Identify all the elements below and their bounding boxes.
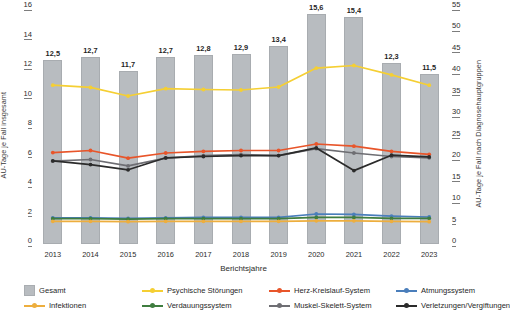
right-tick-30: 30 xyxy=(452,107,476,118)
series-point[interactable] xyxy=(390,153,394,157)
tick-label: 6 xyxy=(28,149,32,159)
x-label-2022: 2022 xyxy=(372,250,412,259)
series-point[interactable] xyxy=(314,142,318,146)
series-point[interactable] xyxy=(164,156,168,160)
series-point[interactable] xyxy=(427,220,431,224)
series-point[interactable] xyxy=(277,149,281,153)
series-point[interactable] xyxy=(89,219,93,223)
legend-item-gesamt[interactable]: Gesamt xyxy=(24,285,142,296)
series-point[interactable] xyxy=(277,219,281,223)
legend-item-infektionen[interactable]: Infektionen xyxy=(24,301,142,310)
left-tick-12: 12 xyxy=(8,59,32,70)
legend-label: Verdauungssystem xyxy=(167,301,232,310)
series-point[interactable] xyxy=(352,169,356,173)
series-point[interactable] xyxy=(427,155,431,159)
left-tick-6: 6 xyxy=(8,148,32,159)
series-point[interactable] xyxy=(239,149,243,153)
right-tick-40: 40 xyxy=(452,64,476,75)
series-point[interactable] xyxy=(239,219,243,223)
tick-label: 12 xyxy=(24,60,32,70)
series-point[interactable] xyxy=(314,146,318,150)
series-point[interactable] xyxy=(202,149,206,153)
legend-item-muskel-skelett-system[interactable]: Muskel-Skelett-System xyxy=(269,301,396,310)
legend-item-verdauungssystem[interactable]: Verdauungssystem xyxy=(142,301,269,310)
tick-label: 40 xyxy=(452,65,460,75)
right-tick-20: 20 xyxy=(452,150,476,161)
series-point[interactable] xyxy=(51,159,55,163)
series-point[interactable] xyxy=(314,216,318,220)
series-point[interactable] xyxy=(314,212,318,216)
tick-label: 10 xyxy=(24,90,32,100)
series-point[interactable] xyxy=(164,151,168,155)
line-series-layer xyxy=(34,8,448,244)
right-tick-50: 50 xyxy=(452,21,476,32)
chart-legend: GesamtPsychische StörungenHerz-Kreislauf… xyxy=(24,283,470,313)
series-point[interactable] xyxy=(51,83,55,87)
series-point[interactable] xyxy=(126,94,130,98)
legend-item-herz-kreislauf-system[interactable]: Herz-Kreislauf-System xyxy=(269,286,396,295)
series-point[interactable] xyxy=(390,73,394,77)
series-point[interactable] xyxy=(89,86,93,90)
legend-label: Gesamt xyxy=(39,286,66,295)
series-point[interactable] xyxy=(277,85,281,89)
series-point[interactable] xyxy=(314,66,318,70)
x-axis-title: Berichtsjahre xyxy=(0,264,487,273)
legend-label: Herz-Kreislauf-System xyxy=(294,286,370,295)
series-point[interactable] xyxy=(164,219,168,223)
legend-label: Verletzungen/Vergiftungen xyxy=(421,301,510,310)
right-tick-45: 45 xyxy=(452,43,476,54)
x-label-2020: 2020 xyxy=(296,250,336,259)
series-point[interactable] xyxy=(277,154,281,158)
legend-swatch-line-icon xyxy=(24,301,45,310)
tick-label: 55 xyxy=(452,1,460,11)
series-point[interactable] xyxy=(427,216,431,220)
series-point[interactable] xyxy=(352,144,356,148)
series-point[interactable] xyxy=(239,154,243,158)
series-point[interactable] xyxy=(202,88,206,92)
legend-swatch-line-icon xyxy=(396,301,417,310)
series-point[interactable] xyxy=(89,158,93,162)
series-point[interactable] xyxy=(427,83,431,87)
tick-label: 16 xyxy=(24,1,32,11)
x-label-2021: 2021 xyxy=(334,250,374,259)
tick-label: 0 xyxy=(28,237,32,247)
series-point[interactable] xyxy=(202,155,206,159)
right-tick-55: 55 xyxy=(452,0,476,11)
legend-item-verletzungen-vergiftungen[interactable]: Verletzungen/Vergiftungen xyxy=(396,301,510,310)
series-point[interactable] xyxy=(126,220,130,224)
series-point[interactable] xyxy=(126,168,130,172)
left-tick-16: 16 xyxy=(8,0,32,11)
legend-item-psychische-st-rungen[interactable]: Psychische Störungen xyxy=(142,286,269,295)
tick-label: 8 xyxy=(28,119,32,129)
series-point[interactable] xyxy=(164,87,168,91)
tick-label: 5 xyxy=(452,216,456,226)
series-point[interactable] xyxy=(126,164,130,168)
left-tick-14: 14 xyxy=(8,30,32,41)
left-tick-0: 0 xyxy=(8,236,32,247)
series-point[interactable] xyxy=(352,219,356,223)
series-point[interactable] xyxy=(352,151,356,155)
series-point[interactable] xyxy=(352,216,356,220)
tick-label: 2 xyxy=(28,208,32,218)
plot-area: 12,512,711,712,712,812,913,415,615,412,3… xyxy=(34,8,448,244)
left-tick-2: 2 xyxy=(8,207,32,218)
x-label-2014: 2014 xyxy=(70,250,110,259)
right-tick-15: 15 xyxy=(452,172,476,183)
series-point[interactable] xyxy=(51,219,55,223)
series-point[interactable] xyxy=(89,163,93,167)
series-point[interactable] xyxy=(390,149,394,153)
series-point[interactable] xyxy=(51,151,55,155)
legend-swatch-line-icon xyxy=(142,286,163,295)
series-point[interactable] xyxy=(126,156,130,160)
series-point[interactable] xyxy=(202,219,206,223)
tick-label: 15 xyxy=(452,173,460,183)
legend-label: Muskel-Skelett-System xyxy=(294,301,372,310)
left-tick-10: 10 xyxy=(8,89,32,100)
x-label-2013: 2013 xyxy=(33,250,73,259)
legend-item-atmungssystem[interactable]: Atmungssystem xyxy=(396,286,510,295)
series-point[interactable] xyxy=(314,219,318,223)
series-point[interactable] xyxy=(89,149,93,153)
series-point[interactable] xyxy=(390,219,394,223)
series-point[interactable] xyxy=(352,64,356,68)
series-point[interactable] xyxy=(239,88,243,92)
